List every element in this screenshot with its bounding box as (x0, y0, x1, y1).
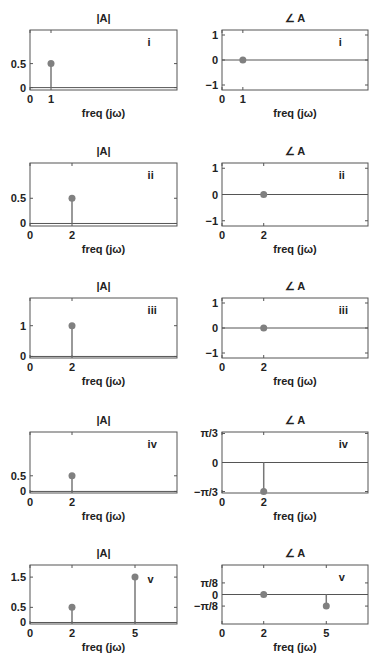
panel-iii-mag: |A|0102freq (jω)iii (20, 280, 177, 387)
x-axis-label: freq (jω) (273, 107, 317, 119)
stem-marker (260, 591, 267, 598)
y-tick-label: 0.5 (11, 192, 26, 204)
panel-i-phase: ∠ A−10101freq (jω)i (205, 12, 368, 119)
x-axis-label: freq (jω) (82, 375, 126, 387)
x-tick-label: 2 (261, 496, 267, 508)
y-tick-label: π/8 (200, 577, 218, 589)
y-tick-label: 0.5 (11, 470, 26, 482)
panel-title: |A| (96, 12, 110, 24)
y-tick-label: 0 (20, 616, 26, 628)
y-tick-label: 1 (20, 320, 26, 332)
stem-marker (260, 191, 267, 198)
y-tick-label: 0 (212, 54, 218, 66)
x-axis-label: freq (jω) (82, 641, 126, 653)
x-tick-label: 2 (69, 496, 75, 508)
y-tick-label: 0 (20, 217, 26, 229)
x-tick-label: 0 (219, 229, 225, 241)
panel-v-mag: |A|00.51.5025freq (jω)v (11, 547, 177, 653)
stem-marker (132, 574, 139, 581)
panel-label: iv (339, 438, 349, 450)
stem-marker (323, 603, 330, 610)
panel-title: |A| (96, 414, 110, 426)
y-tick-label: 0 (212, 322, 218, 334)
y-tick-label: −1 (205, 215, 218, 227)
y-tick-label: −π/3 (194, 486, 218, 498)
panel-title: |A| (96, 547, 110, 559)
panel-label: v (148, 573, 155, 585)
x-tick-label: 0 (27, 361, 33, 373)
panel-title: ∠ A (285, 12, 306, 24)
y-tick-label: 0.5 (11, 601, 26, 613)
panel-label: i (148, 36, 151, 48)
y-tick-label: −π/8 (194, 600, 218, 612)
figure: |A|00.501freq (jω)i∠ A−10101freq (jω)i|A… (0, 0, 386, 661)
x-tick-label: 0 (27, 627, 33, 639)
x-axis-label: freq (jω) (273, 375, 317, 387)
stem-marker (69, 322, 76, 329)
panel-title: |A| (96, 280, 110, 292)
x-tick-label: 1 (48, 93, 54, 105)
x-tick-label: 0 (219, 361, 225, 373)
x-axis-label: freq (jω) (82, 510, 126, 522)
x-tick-label: 2 (69, 361, 75, 373)
y-tick-label: 0 (212, 589, 218, 601)
panel-ii-phase: ∠ A−10102freq (jω)ii (205, 145, 368, 255)
panel-iv-phase: ∠ A−π/30π/302freq (jω)iv (194, 414, 368, 522)
panel-ii-mag: |A|00.502freq (jω)ii (11, 145, 177, 255)
x-tick-label: 0 (27, 496, 33, 508)
panel-title: ∠ A (285, 547, 306, 559)
y-tick-label: 1.5 (11, 571, 26, 583)
panel-label: iv (148, 438, 158, 450)
panel-label: v (339, 571, 346, 583)
y-tick-label: 0 (212, 189, 218, 201)
x-tick-label: 5 (323, 627, 329, 639)
panel-title: |A| (96, 145, 110, 157)
y-tick-label: 0 (212, 457, 218, 469)
x-tick-label: 0 (219, 627, 225, 639)
x-axis-label: freq (jω) (273, 641, 317, 653)
axes-box (30, 565, 177, 624)
y-tick-label: −1 (205, 347, 218, 359)
panel-label: iii (339, 304, 348, 316)
y-tick-label: 1 (212, 297, 218, 309)
x-axis-label: freq (jω) (273, 510, 317, 522)
stem-marker (69, 472, 76, 479)
x-tick-label: 2 (69, 627, 75, 639)
panel-v-phase: ∠ A−π/80π/8025freq (jω)v (194, 547, 368, 653)
x-axis-label: freq (jω) (82, 107, 126, 119)
panel-title: ∠ A (285, 414, 306, 426)
panel-label: iii (148, 304, 157, 316)
stem-marker (69, 604, 76, 611)
x-tick-label: 2 (69, 229, 75, 241)
x-tick-label: 2 (261, 627, 267, 639)
stem-marker (69, 195, 76, 202)
stem-marker (239, 57, 246, 64)
x-tick-label: 0 (27, 229, 33, 241)
y-tick-label: π/3 (200, 427, 218, 439)
panel-iv-mag: |A|00.502freq (jω)iv (11, 414, 177, 522)
x-tick-label: 2 (261, 229, 267, 241)
x-tick-label: 0 (219, 93, 225, 105)
panel-iii-phase: ∠ A−10102freq (jω)iii (205, 280, 368, 387)
panel-label: i (339, 36, 342, 48)
y-tick-label: −1 (205, 79, 218, 91)
y-tick-label: 1 (212, 29, 218, 41)
panel-label: ii (148, 169, 154, 181)
y-tick-label: 0 (20, 485, 26, 497)
x-tick-label: 5 (132, 627, 138, 639)
x-tick-label: 1 (240, 93, 246, 105)
stem-marker (260, 488, 267, 495)
y-tick-label: 0 (20, 350, 26, 362)
y-tick-label: 0 (20, 82, 26, 94)
panel-label: ii (339, 169, 345, 181)
x-tick-label: 0 (27, 93, 33, 105)
x-tick-label: 2 (261, 361, 267, 373)
x-tick-label: 0 (219, 496, 225, 508)
stem-marker (48, 60, 55, 67)
stem-marker (260, 325, 267, 332)
axes-box (30, 30, 177, 90)
y-tick-label: 0.5 (11, 58, 26, 70)
axes-box (30, 163, 177, 226)
y-tick-label: 1 (212, 162, 218, 174)
x-axis-label: freq (jω) (273, 243, 317, 255)
